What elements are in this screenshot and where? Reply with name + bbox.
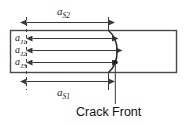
crack-front-dimension-diagram: aS2 aS1 aJ1 aJ2 aJ3 Crack Front xyxy=(0,0,193,125)
label-aj2-subscript: J2 xyxy=(20,50,26,57)
crack-front-label: Crack Front xyxy=(76,106,141,119)
label-aj3-subscript: J3 xyxy=(20,62,26,69)
label-as1: aS1 xyxy=(57,87,70,101)
plate-outline xyxy=(11,31,177,73)
label-aj3: aJ3 xyxy=(15,57,26,70)
label-as2-subscript: S2 xyxy=(63,11,70,20)
crack-front-curve xyxy=(109,31,118,73)
label-as1-subscript: S1 xyxy=(63,92,70,101)
label-aj1-subscript: J1 xyxy=(20,38,26,45)
label-as2: aS2 xyxy=(57,6,70,20)
